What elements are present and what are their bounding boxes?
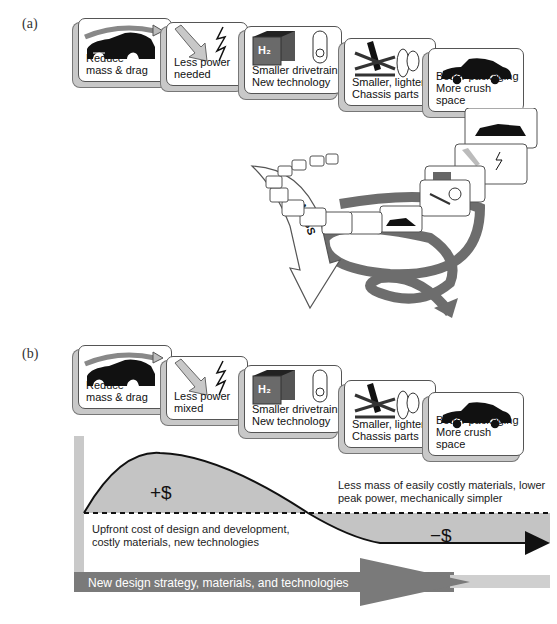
card-reduce-mass: Reducemass & drag bbox=[78, 18, 172, 82]
mass-spiral-illustration: MASS bbox=[230, 108, 550, 318]
card-line2: New technology bbox=[252, 415, 330, 427]
card-line2: needed bbox=[174, 68, 211, 80]
minus-cost-label: −$ bbox=[430, 525, 452, 547]
card-line1: Less power bbox=[174, 390, 230, 402]
card-line2: More crush space bbox=[436, 82, 491, 106]
card-line2: New technology bbox=[252, 76, 330, 88]
card-line1: Smaller, lighter bbox=[352, 76, 425, 88]
card-line1: Better packaging bbox=[436, 414, 519, 426]
card-line2: mixed bbox=[174, 402, 203, 414]
panel-a-label: (a) bbox=[22, 16, 38, 32]
card-line1: Better packaging bbox=[436, 70, 519, 82]
card-line1: Reduce bbox=[86, 52, 124, 64]
card-smaller-drivetrain-b: H₂ Smaller drivetrainNew technology bbox=[244, 365, 342, 433]
card-line1: Smaller, lighter bbox=[352, 418, 425, 430]
card-reduce-mass-b: Reducemass & drag bbox=[78, 345, 172, 409]
upfront-cost-note: Upfront cost of design and development, … bbox=[92, 523, 290, 549]
card-better-packaging: Better packagingMore crush space bbox=[428, 48, 524, 112]
card-line1: Smaller drivetrain bbox=[252, 403, 338, 415]
strategy-label: New design strategy, materials, and tech… bbox=[88, 576, 349, 590]
card-chassis-parts-b: Smaller, lighterChassis parts bbox=[344, 380, 436, 448]
card-smaller-drivetrain: H₂ Smaller drivetrainNew technology bbox=[244, 26, 342, 94]
card-less-power: Less powerneeded bbox=[166, 22, 248, 86]
plus-cost-label: +$ bbox=[150, 482, 172, 504]
h2-label: H₂ bbox=[258, 383, 271, 395]
panel-b-label: (b) bbox=[22, 346, 38, 362]
savings-note: Less mass of easily costly materials, lo… bbox=[338, 479, 545, 505]
card-less-power-b: Less powermixed bbox=[166, 356, 248, 420]
h2-label: H₂ bbox=[258, 44, 271, 56]
card-line2: mass & drag bbox=[86, 391, 148, 403]
card-line1: Less power bbox=[174, 56, 230, 68]
card-line2: Chassis parts bbox=[352, 88, 419, 100]
card-line2: mass & drag bbox=[86, 64, 148, 76]
card-chassis-parts: Smaller, lighterChassis parts bbox=[344, 38, 436, 106]
card-line1: Reduce bbox=[86, 379, 124, 391]
card-line1: Smaller drivetrain bbox=[252, 64, 338, 76]
